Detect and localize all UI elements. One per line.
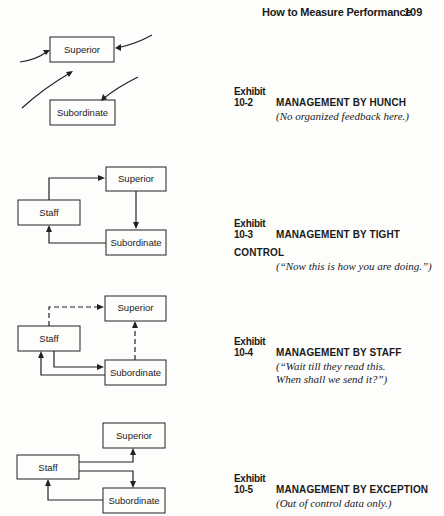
arrowhead-icon xyxy=(132,321,138,328)
diagram-management-by-staff: Superior Staff Subordinate xyxy=(0,260,230,390)
arrowhead-icon xyxy=(97,364,104,370)
exhibit-subtitle-line-1: (“Wait till they read this. xyxy=(234,360,401,373)
exhibit-title: MANAGEMENT BY STAFF xyxy=(276,347,401,358)
arrowhead-icon xyxy=(46,225,52,232)
staff-label: Staff xyxy=(38,462,58,473)
superior-label: Superior xyxy=(118,302,154,313)
subordinate-label: Subordinate xyxy=(108,495,159,506)
exhibit-number: Exhibit 10-5 xyxy=(234,473,276,495)
arrowhead-icon xyxy=(38,351,44,358)
diagram-management-by-tight-control: Superior Staff Subordinate xyxy=(0,130,230,260)
diagram-management-by-exception: Superior Staff Subordinate xyxy=(0,390,230,516)
arrowhead-icon xyxy=(133,222,139,229)
caption-exhibit-10-3: Exhibit 10-3MANAGEMENT BY TIGHT CONTROL … xyxy=(234,218,444,273)
exhibit-title: MANAGEMENT BY EXCEPTION xyxy=(276,484,428,495)
exhibit-number: Exhibit 10-4 xyxy=(234,336,276,358)
caption-exhibit-10-4: Exhibit 10-4MANAGEMENT BY STAFF (“Wait t… xyxy=(234,336,401,386)
arrowhead-icon xyxy=(66,71,73,77)
running-header-title: How to Measure Performance xyxy=(262,6,411,18)
arrowhead-icon xyxy=(130,448,136,455)
staff-label: Staff xyxy=(39,333,59,344)
subordinate-label: Subordinate xyxy=(110,367,161,378)
dashed-report-line xyxy=(49,307,100,326)
exhibit-subtitle: (No organized feedback here.) xyxy=(234,110,409,123)
exhibit-number: Exhibit 10-3 xyxy=(234,218,276,240)
exhibit-subtitle: (Out of control data only.) xyxy=(234,497,428,510)
superior-label: Superior xyxy=(64,44,100,55)
exhibit-number: Exhibit 10-2 xyxy=(234,86,276,108)
subordinate-label: Subordinate xyxy=(110,237,161,248)
staff-label: Staff xyxy=(39,207,59,218)
feedback-arrow xyxy=(20,51,48,62)
arrowhead-icon xyxy=(45,479,51,486)
page-number: 109 xyxy=(404,6,422,18)
subordinate-label: Subordinate xyxy=(57,107,108,118)
exhibit-subtitle: (“Now this is how you are doing.”) xyxy=(234,260,444,273)
caption-exhibit-10-2: Exhibit 10-2MANAGEMENT BY HUNCH (No orga… xyxy=(234,86,409,123)
exhibit-title: MANAGEMENT BY HUNCH xyxy=(276,97,406,108)
superior-label: Superior xyxy=(118,173,154,184)
arrowhead-icon xyxy=(115,44,121,51)
diagram-management-by-hunch: Superior Subordinate xyxy=(0,0,230,130)
arrowhead-icon xyxy=(97,304,104,310)
caption-exhibit-10-5: Exhibit 10-5MANAGEMENT BY EXCEPTION (Out… xyxy=(234,473,428,510)
arrowhead-icon xyxy=(130,481,136,488)
exhibit-subtitle-line-2: When shall we send it?”) xyxy=(234,373,401,386)
arrowhead-icon xyxy=(98,175,105,181)
superior-label: Superior xyxy=(116,430,152,441)
